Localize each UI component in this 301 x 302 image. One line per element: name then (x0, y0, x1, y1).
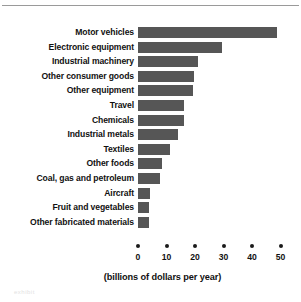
bar (138, 202, 149, 213)
bar-category-label: Other fabricated materials (30, 216, 134, 229)
x-axis-caption: (billions of dollars per year) (0, 272, 301, 282)
bar-row: Textiles (0, 143, 301, 158)
bar-category-label: Chemicals (92, 114, 134, 127)
x-axis-caption-text: (billions of dollars per year) (104, 272, 221, 282)
bar (138, 173, 160, 184)
bar-row: Fruit and vegetables (0, 201, 301, 216)
bar-row: Other equipment (0, 84, 301, 99)
bar (138, 71, 194, 82)
scan-artifact-text: exhibit (14, 289, 35, 295)
bar (138, 188, 150, 199)
x-axis-tick-label: 10 (162, 252, 172, 262)
x-axis-tick-label: 50 (276, 252, 286, 262)
x-axis-tick-label: 30 (219, 252, 229, 262)
bar-category-label: Other consumer goods (41, 70, 134, 83)
x-axis-tick-label: 40 (247, 252, 257, 262)
bar-category-label: Industrial metals (67, 128, 134, 141)
bar-category-label: Other equipment (67, 84, 134, 97)
x-axis-tick-dot (136, 244, 140, 248)
bar-row: Chemicals (0, 114, 301, 129)
bar (138, 85, 193, 96)
bar-category-label: Aircraft (104, 187, 134, 200)
bar-category-label: Fruit and vegetables (52, 201, 134, 214)
x-axis-tick-dot (279, 244, 283, 248)
bar (138, 42, 222, 53)
bar (138, 27, 277, 38)
bar-row: Coal, gas and petroleum (0, 172, 301, 187)
bar-row: Travel (0, 99, 301, 114)
bar (138, 144, 170, 155)
bar-category-label: Textiles (103, 143, 134, 156)
bar-chart-figure: Motor vehiclesElectronic equipmentIndust… (0, 0, 301, 302)
bar-category-label: Coal, gas and petroleum (36, 172, 134, 185)
bar (138, 56, 198, 67)
bar-row: Industrial machinery (0, 55, 301, 70)
bar-row: Motor vehicles (0, 26, 301, 41)
bar-row: Electronic equipment (0, 41, 301, 56)
bar-category-label: Industrial machinery (52, 55, 134, 68)
x-axis-tick-label: 0 (136, 252, 141, 262)
bar (138, 158, 162, 169)
bar-row: Other consumer goods (0, 70, 301, 85)
top-divider-rule (2, 5, 299, 6)
x-axis-tick-dot (165, 244, 169, 248)
bar-category-label: Travel (110, 99, 134, 112)
bar (138, 129, 178, 140)
bar-row: Aircraft (0, 187, 301, 202)
x-axis-tick-dot (222, 244, 226, 248)
bar (138, 217, 149, 228)
plot-area: Motor vehiclesElectronic equipmentIndust… (0, 26, 301, 230)
x-axis-tick-label: 20 (190, 252, 200, 262)
bar-category-label: Other foods (86, 157, 134, 170)
bar-row: Other foods (0, 157, 301, 172)
x-axis-tick-dot (193, 244, 197, 248)
bar-category-label: Electronic equipment (49, 41, 134, 54)
bar-row: Other fabricated materials (0, 216, 301, 231)
bar-row: Industrial metals (0, 128, 301, 143)
x-axis-tick-dot (250, 244, 254, 248)
bar-category-label: Motor vehicles (75, 26, 134, 39)
bar (138, 115, 184, 126)
bar (138, 100, 184, 111)
